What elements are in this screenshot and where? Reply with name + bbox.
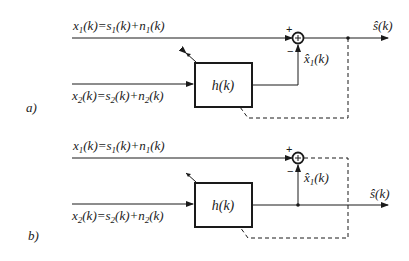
panel-label: a): [26, 100, 37, 115]
input2-label: x2(k)=s2(k)+n2(k): [71, 208, 164, 225]
plus-sign: +: [286, 143, 292, 155]
input1-label: x1(k)=s1(k)+n1(k): [72, 138, 165, 155]
output-label: ŝ(k): [373, 18, 393, 33]
plus-sign: +: [286, 23, 292, 35]
output-label: ŝ(k): [370, 186, 390, 201]
input1-label: x1(k)=s1(k)+n1(k): [72, 18, 165, 35]
panel-a: x1(k)=s1(k)+n1(k) x2(k)=s2(k)+n2(k) h(k)…: [26, 18, 393, 118]
estimate-label: x̂1(k): [303, 51, 329, 68]
filter-label: h(k): [212, 198, 235, 214]
feedback-line: [240, 38, 348, 118]
estimate-label: x̂1(k): [303, 170, 329, 187]
panel-b: x1(k)=s1(k)+n1(k) x2(k)=s2(k)+n2(k) h(k)…: [28, 138, 390, 243]
filter-label: h(k): [212, 78, 235, 94]
minus-sign: −: [287, 165, 293, 177]
feedback-line: [240, 158, 348, 238]
input2-label: x2(k)=s2(k)+n2(k): [71, 88, 164, 105]
panel-label: b): [28, 228, 39, 243]
adaptive-filter-diagram: x1(k)=s1(k)+n1(k) x2(k)=s2(k)+n2(k) h(k)…: [0, 0, 409, 261]
minus-sign: −: [287, 45, 293, 57]
